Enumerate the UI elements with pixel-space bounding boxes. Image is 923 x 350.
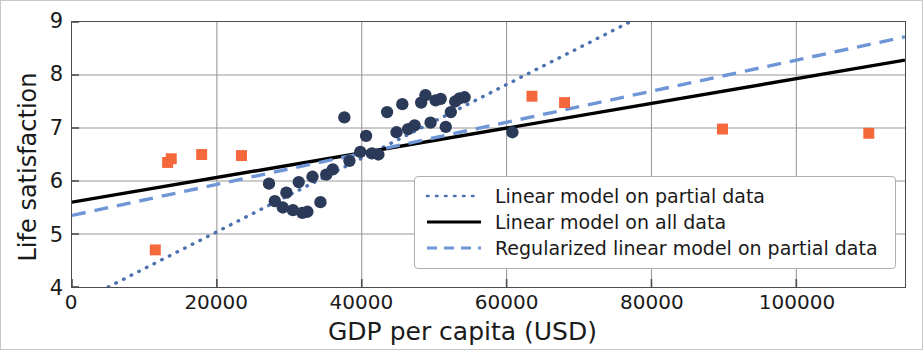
data-point-circle — [360, 130, 372, 142]
data-point-circle — [263, 177, 275, 189]
chart-legend: Linear model on partial data Linear mode… — [414, 176, 896, 269]
data-point-square — [526, 91, 537, 102]
data-point-circle — [396, 98, 408, 110]
data-point-circle — [424, 117, 436, 129]
data-point-circle — [506, 126, 518, 138]
x-tick-20000: 20000 — [184, 292, 248, 312]
data-point-circle — [440, 121, 452, 133]
data-point-circle — [408, 119, 420, 131]
data-point-circle — [435, 93, 447, 105]
data-point-circle — [381, 106, 393, 118]
data-point-square — [863, 128, 874, 139]
legend-entry-regularized: Regularized linear model on partial data — [425, 235, 885, 261]
data-point-circle — [280, 187, 292, 199]
legend-label-regularized: Regularized linear model on partial data — [495, 239, 878, 258]
y-tick-8: 8 — [50, 64, 63, 85]
x-tick-60000: 60000 — [475, 292, 539, 312]
data-point-square — [166, 153, 177, 164]
data-point-square — [196, 149, 207, 160]
data-point-circle — [293, 176, 305, 188]
data-point-circle — [301, 206, 313, 218]
x-axis-label: GDP per capita (USD) — [1, 317, 923, 346]
legend-label-all: Linear model on all data — [495, 213, 726, 232]
data-point-circle — [458, 91, 470, 103]
data-point-circle — [338, 111, 350, 123]
chart-figure: Life satisfaction 9 8 7 6 5 4 0 20000 40… — [0, 0, 923, 350]
x-tick-80000: 80000 — [620, 292, 684, 312]
y-tick-4: 4 — [50, 278, 63, 299]
data-point-circle — [306, 171, 318, 183]
data-point-circle — [314, 196, 326, 208]
y-tick-9: 9 — [50, 11, 63, 32]
data-point-circle — [372, 148, 384, 160]
data-point-square — [559, 97, 570, 108]
x-tick-0: 0 — [65, 292, 78, 312]
y-tick-6: 6 — [50, 171, 63, 192]
data-point-square — [717, 124, 728, 135]
legend-entry-partial: Linear model on partial data — [425, 183, 885, 209]
y-tick-7: 7 — [50, 117, 63, 138]
x-tick-100000: 100000 — [759, 292, 835, 312]
data-point-circle — [327, 163, 339, 175]
data-point-square — [150, 244, 161, 255]
x-tick-40000: 40000 — [330, 292, 394, 312]
legend-swatch-solid-icon — [425, 212, 483, 232]
data-point-square — [236, 150, 247, 161]
legend-label-partial: Linear model on partial data — [495, 187, 765, 206]
data-point-circle — [343, 155, 355, 167]
data-point-circle — [390, 126, 402, 138]
y-axis-tick-labels: 9 8 7 6 5 4 — [1, 1, 63, 350]
y-tick-5: 5 — [50, 224, 63, 245]
legend-swatch-dashed-icon — [425, 238, 483, 258]
data-point-circle — [445, 106, 457, 118]
legend-swatch-dotted-icon — [425, 186, 483, 206]
legend-entry-all: Linear model on all data — [425, 209, 885, 235]
data-point-circle — [354, 146, 366, 158]
